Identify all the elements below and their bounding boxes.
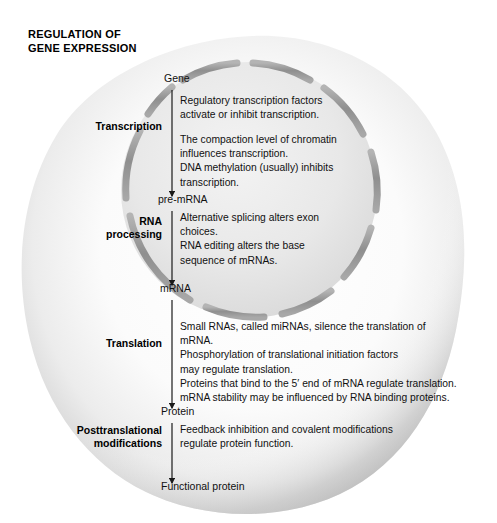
labels-layer: Gene pre-mRNA mRNA Protein Functional pr… — [0, 0, 497, 523]
node-pre-mrna: pre-mRNA — [158, 193, 208, 205]
node-functional-protein: Functional protein — [161, 480, 244, 492]
diagram-canvas: REGULATION OF GENE EXPRESSION Gene pre-m… — [0, 0, 497, 523]
node-mrna: mRNA — [160, 282, 191, 294]
node-protein: Protein — [161, 405, 194, 417]
stage-label-translation: Translation — [30, 337, 162, 350]
node-gene: Gene — [164, 72, 190, 84]
details-translation: Small RNAs, called miRNAs, silence the t… — [180, 320, 457, 405]
details-transcription-2: The compaction level of chromatin influe… — [180, 133, 337, 190]
stage-label-posttranslational-modifications: Posttranslational modifications — [18, 424, 162, 450]
stage-label-transcription: Transcription — [30, 120, 162, 133]
details-rna-processing: Alternative splicing alters exon choices… — [180, 211, 319, 268]
details-transcription-1: Regulatory transcription factors activat… — [180, 94, 323, 122]
details-posttranslational-modifications: Feedback inhibition and covalent modific… — [180, 423, 393, 451]
stage-label-rna-processing: RNA processing — [30, 215, 162, 241]
